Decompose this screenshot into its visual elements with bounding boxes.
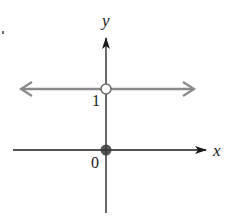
piecewise-function-graph: x y 1 0 [0,0,238,221]
tick-label-y-1: 1 [92,92,100,109]
x-axis-label: x [212,141,221,160]
graph-canvas: x y 1 0 [0,0,238,221]
y-axis-label: y [100,11,110,30]
tick-label-origin: 0 [91,154,99,171]
y-axis: y [100,11,110,213]
filled-dot-point [101,145,112,156]
stray-mark [2,31,4,34]
open-circle-point [101,84,111,94]
x-axis: x [13,141,221,160]
